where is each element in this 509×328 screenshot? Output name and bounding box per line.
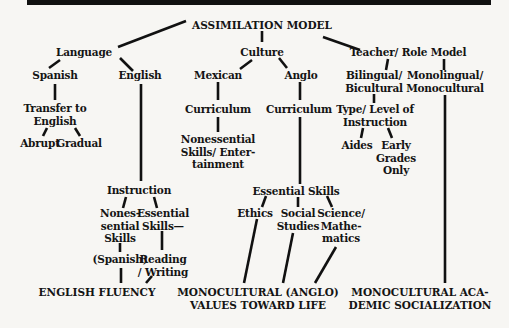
node-monocultural-values: MONOCULTURAL (ANGLO) VALUES TOWARD LIFE xyxy=(177,286,339,311)
node-language: Language xyxy=(56,46,112,59)
node-curriculum-anglo: Curriculum xyxy=(266,103,332,116)
node-gradual: Gradual xyxy=(56,137,102,150)
edge-science-values xyxy=(315,247,336,283)
node-english-fluency: ENGLISH FLUENCY xyxy=(39,286,156,299)
node-essential-skills-english: Essential Skills— xyxy=(137,207,189,232)
edge-ethics-values xyxy=(244,219,257,283)
node-early-grades-only: Early Grades Only xyxy=(376,139,416,177)
node-reading-writing: Reading / Writing xyxy=(138,253,188,278)
node-science-mathematics: Science/ Mathe- matics xyxy=(317,207,365,245)
node-mexican: Mexican xyxy=(194,69,242,82)
node-nonessential-entertainment: Nonessential Skills/ Enter- tainment xyxy=(181,133,255,171)
node-anglo: Anglo xyxy=(284,69,317,82)
node-abrupt: Abrupt xyxy=(20,137,60,150)
node-instruction: Instruction xyxy=(107,184,171,197)
node-bilingual-bicultural: Bilingual/ Bicultural xyxy=(345,69,403,94)
edge-type-early xyxy=(388,128,392,138)
node-monolingual-monocultural: Monolingual/ Monocultural xyxy=(406,69,484,94)
edge-root-language xyxy=(118,21,186,47)
edge-culture-mexican xyxy=(240,60,252,69)
node-essential-skills-anglo: Essential Skills xyxy=(253,185,340,198)
node-culture: Culture xyxy=(240,46,283,59)
edge-language-spanish xyxy=(49,60,60,68)
edge-transfer-gradual xyxy=(75,128,80,136)
edge-culture-anglo xyxy=(279,58,287,68)
node-assimilation-model: ASSIMILATION MODEL xyxy=(192,19,332,32)
edge-essential-ethics xyxy=(262,196,266,207)
node-nonessential-skills: Nones- sential Skills xyxy=(100,207,140,245)
node-curriculum-mexican: Curriculum xyxy=(185,103,251,116)
edge-transfer-abrupt xyxy=(43,128,47,136)
node-monocultural-academic: MONOCULTURAL ACA- DEMIC SOCIALIZATION xyxy=(349,286,492,311)
edge-essential-science xyxy=(327,196,332,207)
node-teacher-role-model: Teacher/ Role Model xyxy=(350,46,467,59)
node-ethics: Ethics xyxy=(237,207,273,220)
node-type-level-instruction: Type/ Level of Instruction xyxy=(336,103,413,128)
node-social-studies: Social Studies xyxy=(277,207,320,232)
node-spanish: Spanish xyxy=(32,69,78,82)
node-transfer-to-english: Transfer to English xyxy=(24,102,87,127)
node-aides: Aides xyxy=(341,139,372,152)
node-english: English xyxy=(118,69,161,82)
edge-social-values xyxy=(283,233,293,283)
edge-type-aides xyxy=(361,128,363,138)
